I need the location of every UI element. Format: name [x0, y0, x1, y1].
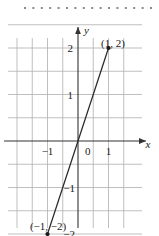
y-tick-label: 2: [68, 42, 74, 54]
x-tick-label: 1: [106, 145, 112, 157]
y-axis-arrowhead: [75, 27, 81, 34]
figure-container: y x −101 21−1−2 (1, 2) (−1, −2): [0, 0, 159, 236]
x-tick-label: −1: [42, 145, 54, 157]
coordinate-plane-graph: y x −101 21−1−2 (1, 2) (−1, −2): [0, 0, 159, 236]
grid-lines: [8, 25, 142, 234]
x-axis-label: x: [145, 138, 151, 150]
x-tick-label: 0: [85, 145, 91, 157]
point-label-lower: (−1, −2): [30, 220, 67, 233]
point-label-upper: (1, 2): [101, 37, 125, 50]
axes-group: [4, 27, 146, 228]
y-axis-label: y: [83, 24, 89, 36]
y-tick-label: 1: [68, 89, 74, 101]
y-tick-label: −1: [63, 182, 75, 194]
data-point-marker-lower: [45, 232, 49, 236]
